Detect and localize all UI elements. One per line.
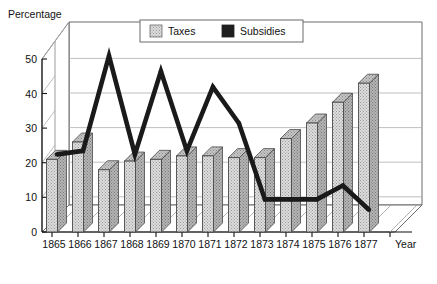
x-tick-label: 1875 <box>302 238 326 250</box>
bar-taxes-1871 <box>203 147 223 232</box>
bar-taxes-1870 <box>177 147 197 232</box>
line-point-subsidies-1867 <box>107 54 111 58</box>
x-tick-label: 1870 <box>172 238 196 250</box>
x-tick-label: 1867 <box>94 238 118 250</box>
bar-taxes-1868 <box>125 152 145 232</box>
x-tick-label: 1865 <box>42 238 66 250</box>
legend-label-taxes: Taxes <box>168 25 195 37</box>
x-tick-label: 1869 <box>146 238 170 250</box>
bar-taxes-1867 <box>99 161 119 232</box>
x-tick-label: 1876 <box>328 238 352 250</box>
line-point-subsidies-1873 <box>263 197 267 201</box>
line-point-subsidies-1874 <box>289 197 293 201</box>
line-point-subsidies-1868 <box>133 152 137 156</box>
line-point-subsidies-1869 <box>159 69 163 73</box>
bar-taxes-1869 <box>151 150 171 232</box>
line-point-subsidies-1871 <box>211 85 215 89</box>
line-point-subsidies-1875 <box>315 197 319 201</box>
legend-swatch-taxes <box>150 25 162 37</box>
line-point-subsidies-1866 <box>81 149 85 153</box>
y-tick-label: 50 <box>25 53 37 65</box>
bar-taxes-1874 <box>281 130 301 232</box>
y-tick-label: 30 <box>25 122 37 134</box>
chart-legend[interactable]: Taxes Subsidies <box>140 20 303 42</box>
x-tick-label: 1874 <box>276 238 300 250</box>
line-point-subsidies-1865 <box>55 152 59 156</box>
line-point-subsidies-1877 <box>367 208 371 212</box>
line-point-subsidies-1876 <box>341 183 345 187</box>
bar-taxes-1876 <box>333 93 353 232</box>
x-axis-title: Year <box>395 238 417 250</box>
x-tick-label: 1877 <box>354 238 378 250</box>
y-axis-title: Percentage <box>8 8 62 20</box>
line-point-subsidies-1870 <box>185 149 189 153</box>
chart-figure: 50 40 30 20 10 0 Percentage <box>0 0 437 284</box>
x-tick-label: 1868 <box>120 238 144 250</box>
y-tick-label: 20 <box>25 157 37 169</box>
legend-swatch-subsidies <box>222 25 234 37</box>
y-tick-label: 10 <box>25 191 37 203</box>
legend-label-subsidies: Subsidies <box>240 25 286 37</box>
bar-taxes-1865 <box>47 150 67 232</box>
bar-taxes-1873 <box>255 149 275 232</box>
line-point-subsidies-1872 <box>237 121 241 125</box>
x-tick-label: 1871 <box>198 238 222 250</box>
chart-canvas: 50 40 30 20 10 0 Percentage <box>0 0 437 284</box>
bar-taxes-1872 <box>229 149 249 232</box>
bar-taxes-1875 <box>307 114 327 232</box>
x-tick-label: 1872 <box>224 238 248 250</box>
x-tick-label: 1866 <box>68 238 92 250</box>
y-tick-label: 40 <box>25 88 37 100</box>
y-tick-label: 0 <box>31 226 37 238</box>
x-tick-label: 1873 <box>250 238 274 250</box>
